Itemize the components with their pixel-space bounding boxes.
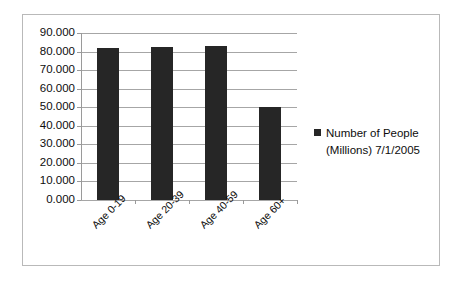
chart-frame: 90.00080.00070.00060.00050.00040.00030.0… — [22, 14, 440, 266]
y-tick-label: 90.000 — [40, 27, 75, 39]
y-tick-label: 10.000 — [40, 176, 75, 188]
bar — [205, 46, 227, 200]
y-tick-mark — [77, 89, 81, 90]
y-tick-mark — [77, 52, 81, 53]
plot-area: 90.00080.00070.00060.00050.00040.00030.0… — [81, 33, 297, 200]
y-tick-mark — [77, 33, 81, 34]
y-tick-label: 80.000 — [40, 46, 75, 58]
y-tick-label: 0.000 — [46, 194, 75, 206]
y-tick-label: 70.000 — [40, 64, 75, 76]
y-tick-mark — [77, 126, 81, 127]
bar — [259, 107, 281, 200]
x-tick-mark — [297, 200, 298, 204]
y-tick-label: 60.000 — [40, 83, 75, 95]
y-tick-mark — [77, 163, 81, 164]
y-tick-label: 50.000 — [40, 101, 75, 113]
y-tick-mark — [77, 107, 81, 108]
gridline — [81, 33, 297, 34]
bar — [151, 47, 173, 200]
y-tick-mark — [77, 200, 81, 201]
chart-legend: Number of People (Millions) 7/1/2005 — [314, 125, 436, 158]
legend-entry-label: Number of People (Millions) 7/1/2005 — [326, 125, 420, 158]
y-tick-mark — [77, 144, 81, 145]
y-tick-label: 20.000 — [40, 157, 75, 169]
x-tick-mark — [243, 200, 244, 204]
x-tick-mark — [135, 200, 136, 204]
x-tick-mark — [189, 200, 190, 204]
y-axis-line — [81, 33, 82, 200]
bar — [97, 48, 119, 200]
legend-square-marker-icon — [314, 129, 321, 136]
y-tick-label: 40.000 — [40, 120, 75, 132]
y-tick-mark — [77, 181, 81, 182]
y-tick-label: 30.000 — [40, 139, 75, 151]
legend-entry: Number of People (Millions) 7/1/2005 — [314, 125, 436, 158]
y-tick-mark — [77, 70, 81, 71]
